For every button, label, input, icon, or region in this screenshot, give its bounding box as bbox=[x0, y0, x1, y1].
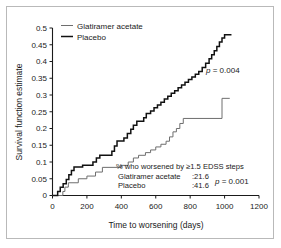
y-axis-tick-labels: 00.050.10.150.20.250.30.350.40.450.5 bbox=[31, 24, 47, 201]
stats-box: % who worsened by ≥1.5 EDSS steps Glatir… bbox=[116, 162, 249, 190]
y-tick-label: 0.35 bbox=[31, 74, 47, 83]
chart-legend: Glatiramer acetate Placebo bbox=[61, 22, 143, 42]
x-tick-label: 0 bbox=[50, 202, 55, 211]
x-tick-label: 400 bbox=[115, 202, 129, 211]
x-axis-title: Time to worsening (days) bbox=[108, 220, 203, 230]
y-tick-label: 0.4 bbox=[36, 57, 48, 66]
annotation-p-value-overall: p = 0.004 bbox=[205, 66, 240, 75]
stats-box-value-glatiramer: :21.6 bbox=[192, 172, 209, 181]
y-tick-label: 0.15 bbox=[31, 141, 47, 150]
stats-box-p-value: p = 0.001 bbox=[214, 177, 249, 186]
y-tick-label: 0.5 bbox=[36, 24, 48, 33]
y-tick-label: 0 bbox=[43, 191, 48, 200]
y-tick-label: 0.2 bbox=[36, 124, 48, 133]
x-tick-label: 200 bbox=[80, 202, 94, 211]
y-tick-label: 0.25 bbox=[31, 108, 47, 117]
y-tick-label: 0.05 bbox=[31, 175, 47, 184]
legend-label-glatiramer: Glatiramer acetate bbox=[77, 22, 143, 31]
figure-container: 00.050.10.150.20.250.30.350.40.450.5 020… bbox=[0, 0, 281, 248]
y-tick-label: 0.1 bbox=[36, 158, 48, 167]
stats-box-label-placebo: Placebo bbox=[118, 181, 145, 190]
x-tick-label: 800 bbox=[183, 202, 197, 211]
stats-box-value-placebo: :41.6 bbox=[192, 181, 209, 190]
stats-box-label-glatiramer: Glatiramer acetate bbox=[118, 172, 180, 181]
y-tick-label: 0.3 bbox=[36, 91, 48, 100]
x-tick-label: 1000 bbox=[216, 202, 234, 211]
legend-label-placebo: Placebo bbox=[77, 33, 106, 42]
y-axis-title: Survival function estimate bbox=[14, 63, 24, 160]
kaplan-meier-chart: 00.050.10.150.20.250.30.350.40.450.5 020… bbox=[0, 0, 281, 248]
stats-p-rest: = 0.001 bbox=[219, 177, 249, 186]
x-axis-tick-labels: 020040060080010001200 bbox=[50, 202, 268, 211]
y-tick-label: 0.45 bbox=[31, 41, 47, 50]
stats-box-header: % who worsened by ≥1.5 EDSS steps bbox=[116, 162, 244, 171]
x-tick-label: 1200 bbox=[250, 202, 268, 211]
x-tick-label: 600 bbox=[149, 202, 163, 211]
annotation-p-rest: = 0.004 bbox=[210, 66, 240, 75]
